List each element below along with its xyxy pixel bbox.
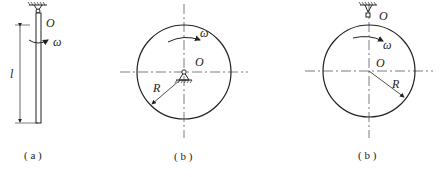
length-label: l	[10, 67, 14, 81]
pivot-top-label: O	[379, 9, 388, 23]
figure-b-disc-center: O ω R ( b )	[120, 4, 248, 163]
rod	[36, 13, 41, 123]
pivot-label: O	[46, 16, 55, 30]
rotation-arrow-icon	[353, 37, 383, 41]
figure-b-disc-top: O O ω R ( b )	[305, 2, 433, 162]
radius-label: R	[152, 81, 161, 95]
caption-b2: ( b )	[358, 149, 377, 162]
omega-label: ω	[200, 26, 208, 40]
omega-label: ω	[383, 38, 391, 52]
length-dimension	[15, 25, 38, 123]
center-label: O	[376, 56, 385, 70]
fixed-support-icon	[359, 2, 377, 17]
figure-a-rod: O ω l ( a )	[10, 2, 61, 162]
pivot-label: O	[195, 55, 204, 69]
fixed-support-icon	[28, 2, 47, 13]
caption-a: ( a )	[24, 149, 42, 162]
radius-label: R	[391, 77, 400, 91]
mechanics-diagram: O ω l ( a ) O ω R ( b )	[0, 0, 440, 177]
omega-label: ω	[53, 35, 61, 49]
caption-b: ( b )	[174, 150, 193, 163]
